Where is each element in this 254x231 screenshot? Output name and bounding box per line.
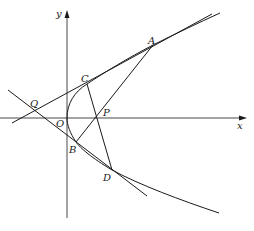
point-c-label: C: [81, 73, 89, 84]
point-b-label: B: [68, 144, 76, 155]
y-axis-label: y: [55, 8, 62, 19]
chord-ab: [76, 45, 153, 142]
point-d-label: D: [102, 172, 111, 183]
chord-cd: [87, 84, 112, 170]
origin-label: O: [56, 118, 64, 129]
point-p-label: P: [102, 107, 110, 118]
point-a-label: A: [147, 35, 155, 46]
parabola-curve: [67, 13, 220, 213]
point-q-label: Q: [30, 98, 38, 109]
x-axis-label: x: [237, 120, 243, 131]
line-qca: [12, 14, 212, 123]
y-axis-arrow-icon: [65, 10, 70, 18]
line-qbd: [8, 90, 147, 196]
parabola-diagram: y x O A C Q P B D: [0, 0, 254, 231]
